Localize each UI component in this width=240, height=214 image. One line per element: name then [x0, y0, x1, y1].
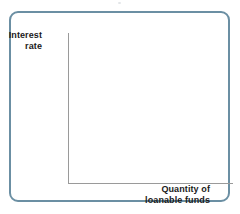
y-axis-line	[68, 33, 69, 184]
scan-artifact-mark	[118, 2, 121, 4]
y-axis-label-line-1: Interest	[9, 30, 42, 41]
figure-root: Interest rate Quantity of loanable funds	[0, 0, 240, 214]
x-axis-label-line-2: loanable funds	[145, 195, 210, 206]
figure-border-frame: Interest rate Quantity of loanable funds	[9, 11, 230, 202]
x-axis-label-line-1: Quantity of	[145, 184, 210, 195]
x-axis-label: Quantity of loanable funds	[145, 184, 210, 206]
y-axis-label-line-2: rate	[9, 41, 42, 52]
y-axis-label: Interest rate	[9, 30, 42, 52]
